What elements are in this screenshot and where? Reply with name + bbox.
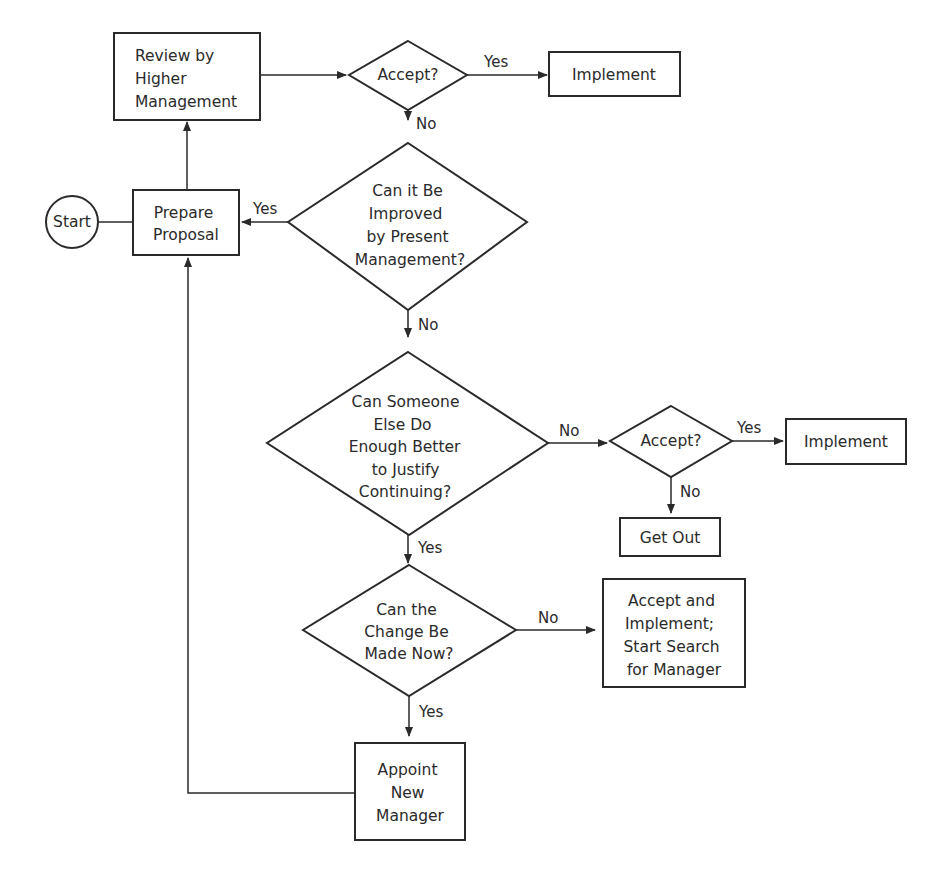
node-start: Start xyxy=(46,196,98,248)
node-implement2: Implement xyxy=(786,419,906,464)
change-now-label-line: Change Be xyxy=(364,623,448,641)
accept-search-label-line: Implement; xyxy=(625,615,714,633)
someone-else-label-line: to Justify xyxy=(372,461,440,479)
edge-label-improve-yes: Yes xyxy=(252,200,277,218)
edge-label-accept2-yes: Yes xyxy=(736,419,761,437)
change-now-label-line: Made Now? xyxy=(364,645,453,663)
node-accept1: Accept? xyxy=(349,41,467,110)
accept-search-label-line: Accept and xyxy=(628,592,715,610)
accept1-label: Accept? xyxy=(377,66,438,84)
node-accept2: Accept? xyxy=(610,406,732,477)
change-now-label-line: Can the xyxy=(376,601,437,619)
improve-label-line: by Present xyxy=(366,228,448,246)
node-appoint: Appoint New Manager xyxy=(355,743,465,840)
review-label-line: Higher xyxy=(135,70,187,88)
someone-else-label-line: Continuing? xyxy=(359,483,451,501)
accept2-label: Accept? xyxy=(640,432,701,450)
node-implement1: Implement xyxy=(549,52,680,96)
prepare-box xyxy=(133,190,239,255)
change-now-label: Can the Change Be Made Now? xyxy=(364,601,453,663)
appoint-label-line: Appoint xyxy=(378,761,438,779)
node-improve: Can it Be Improved by Present Management… xyxy=(288,143,527,310)
node-someone-else: Can Someone Else Do Enough Better to Jus… xyxy=(267,352,548,535)
node-get-out: Get Out xyxy=(620,518,720,556)
implement1-label: Implement xyxy=(572,66,656,84)
connector-appoint-prepare-loop xyxy=(188,258,355,793)
node-prepare: Prepare Proposal xyxy=(133,190,239,255)
implement2-label: Implement xyxy=(804,433,888,451)
edge-label-improve-no: No xyxy=(418,316,438,334)
accept-search-label-line: Start Search xyxy=(624,638,720,656)
node-accept-search: Accept and Implement; Start Search for M… xyxy=(603,579,745,687)
accept-search-label-line: for Manager xyxy=(627,661,722,679)
someone-else-label-line: Enough Better xyxy=(349,438,461,456)
improve-label-line: Management? xyxy=(355,251,465,269)
node-change-now: Can the Change Be Made Now? xyxy=(303,565,516,696)
appoint-label-line: New xyxy=(391,784,425,802)
edge-label-change-now-no: No xyxy=(538,609,558,627)
get-out-label: Get Out xyxy=(640,529,701,547)
flowchart-canvas: Yes No Yes No No Yes No Yes No Yes Start… xyxy=(0,0,951,882)
edge-label-change-now-yes: Yes xyxy=(418,703,443,721)
prepare-label-line: Proposal xyxy=(153,226,219,244)
someone-else-label-line: Else Do xyxy=(374,416,432,434)
node-review: Review by Higher Management xyxy=(114,33,260,120)
start-label: Start xyxy=(53,213,91,231)
prepare-label-line: Prepare xyxy=(154,204,214,222)
improve-label-line: Can it Be xyxy=(372,182,443,200)
edge-label-accept1-no: No xyxy=(416,115,436,133)
someone-else-label-line: Can Someone xyxy=(352,393,460,411)
edge-label-someone-else-yes: Yes xyxy=(417,539,442,557)
edge-label-someone-else-no: No xyxy=(559,422,579,440)
review-label-line: Management xyxy=(135,93,237,111)
edge-label-accept1-yes: Yes xyxy=(483,53,508,71)
someone-else-label: Can Someone Else Do Enough Better to Jus… xyxy=(349,393,466,501)
improve-diamond xyxy=(288,143,527,310)
edge-label-accept2-no: No xyxy=(680,483,700,501)
review-label-line: Review by xyxy=(135,47,214,65)
improve-label-line: Improved xyxy=(369,205,443,223)
appoint-label-line: Manager xyxy=(376,807,445,825)
